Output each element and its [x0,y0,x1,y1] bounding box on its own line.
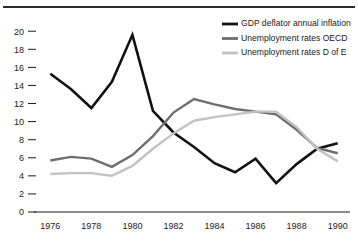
y-axis-tick-marks [28,31,36,212]
x-axis-tick-labels: 19761978198019821984198619881990 [40,221,347,231]
x-axis-tick-label: 1986 [246,221,266,231]
x-axis-tick-label: 1978 [81,221,101,231]
y-axis-tick-label: 14 [14,81,24,91]
y-axis-tick-label: 2 [19,189,24,199]
x-axis-tick-label: 1990 [328,221,348,231]
x-axis-tick-label: 1984 [205,221,225,231]
chart-legend: GDP deflator annual inflationUnemploymen… [222,18,351,57]
y-axis-tick-label: 6 [19,153,24,163]
x-axis-tick-label: 1976 [40,221,60,231]
y-axis-tick-label: 18 [14,45,24,55]
y-axis-tick-label: 20 [14,27,24,37]
y-axis-tick-label: 10 [14,117,24,127]
legend-label: Unemployment rates D of E [241,47,347,57]
y-axis-tick-label: 8 [19,135,24,145]
series-line-1 [50,99,337,167]
y-axis-tick-label: 16 [14,63,24,73]
y-axis-tick-label: 4 [19,171,24,181]
chart-figure: 02468101214161820 1976197819801982198419… [0,0,358,243]
y-axis-tick-label: 12 [14,99,24,109]
legend-label: Unemployment rates OECD [241,33,348,43]
legend-label: GDP deflator annual inflation [241,18,351,28]
x-axis-tick-label: 1982 [163,221,183,231]
y-axis-tick-label: 0 [19,207,24,217]
x-axis-tick-label: 1988 [287,221,307,231]
x-axis-tick-label: 1980 [122,221,142,231]
line-chart-canvas: 02468101214161820 1976197819801982198419… [0,0,358,243]
y-axis-tick-labels: 02468101214161820 [14,27,24,218]
